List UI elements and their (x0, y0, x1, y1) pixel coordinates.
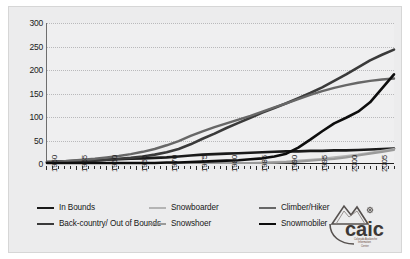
x-tick-mark (226, 166, 227, 170)
x-tick-label: 1965 (140, 155, 149, 172)
x-tick-mark (238, 166, 239, 169)
y-tick-label: 0 (38, 160, 43, 168)
legend-label: Snowshoer (171, 219, 211, 228)
legend-item[interactable]: In Bounds (37, 203, 95, 212)
x-tick-mark (76, 166, 77, 170)
x-tick-mark (256, 166, 257, 170)
x-tick-mark (250, 166, 251, 169)
x-tick-mark (208, 166, 209, 169)
series-line (47, 50, 394, 163)
legend-label: Climber/Hiker (281, 203, 329, 212)
x-tick-mark (268, 166, 269, 169)
x-tick-mark (220, 166, 221, 169)
y-tick-label: 100 (29, 113, 43, 121)
legend-swatch-icon (149, 207, 166, 209)
x-tick-mark (310, 166, 311, 169)
x-tick-label: 1960 (110, 155, 119, 172)
x-tick-mark (370, 166, 371, 169)
x-tick-mark (358, 166, 359, 169)
x-tick-mark (82, 166, 83, 169)
x-tick-mark (262, 166, 263, 169)
legend-label: Snowmobiler (281, 219, 327, 228)
x-tick-mark (388, 166, 389, 169)
legend-item[interactable]: Climber/Hiker (259, 203, 329, 212)
x-tick-mark (124, 166, 125, 169)
x-tick-mark (142, 166, 143, 169)
y-tick-label: 300 (29, 19, 43, 27)
y-tick-label: 150 (29, 90, 43, 98)
chart-figure: 050100150200250300 195019551960196519701… (8, 6, 402, 253)
x-tick-mark (148, 166, 149, 169)
x-tick-label: 1995 (320, 155, 329, 172)
x-tick-mark (298, 166, 299, 169)
x-tick-mark (364, 166, 365, 169)
x-tick-mark (172, 166, 173, 169)
x-tick-mark (154, 166, 155, 169)
legend-swatch-icon (259, 207, 276, 209)
x-tick-mark (112, 166, 113, 169)
svg-text:Colorado Avalanche: Colorado Avalanche (354, 237, 378, 241)
legend-item[interactable]: Snowboarder (149, 203, 219, 212)
x-tick-label: 1955 (80, 155, 89, 172)
x-tick-mark (274, 166, 275, 169)
legend-label: Back-country/ Out of Bounds (59, 219, 161, 228)
x-tick-mark (244, 166, 245, 169)
legend-item[interactable]: Back-country/ Out of Bounds (37, 219, 161, 228)
x-tick-mark (64, 166, 65, 169)
x-tick-mark (352, 166, 353, 169)
x-tick-label: 1980 (230, 155, 239, 172)
legend-label: In Bounds (59, 203, 95, 212)
x-tick-mark (286, 166, 287, 170)
x-tick-mark (178, 166, 179, 169)
y-axis: 050100150200250300 (9, 7, 43, 167)
x-tick-label: 1950 (50, 155, 59, 172)
x-tick-mark (196, 166, 197, 170)
x-tick-mark (334, 166, 335, 169)
x-tick-mark (280, 166, 281, 169)
x-tick-label: 1990 (290, 155, 299, 172)
x-tick-mark (190, 166, 191, 169)
chart-lines (47, 23, 394, 163)
x-tick-mark (232, 166, 233, 169)
x-tick-mark (322, 166, 323, 169)
x-tick-mark (202, 166, 203, 169)
x-tick-mark (94, 166, 95, 169)
x-tick-label: 2005 (380, 155, 389, 172)
x-tick-mark (160, 166, 161, 169)
x-tick-mark (136, 166, 137, 170)
legend-item[interactable]: Snowmobiler (259, 219, 327, 228)
legend-swatch-icon (149, 223, 166, 225)
x-tick-mark (328, 166, 329, 169)
x-tick-mark (376, 166, 377, 170)
legend-swatch-icon (37, 223, 54, 225)
legend-item[interactable]: Snowshoer (149, 219, 211, 228)
x-tick-mark (88, 166, 89, 169)
y-tick-label: 200 (29, 66, 43, 74)
x-tick-label: 1985 (260, 155, 269, 172)
x-tick-mark (394, 166, 395, 169)
x-tick-mark (52, 166, 53, 169)
legend-swatch-icon (259, 223, 276, 225)
x-tick-mark (292, 166, 293, 169)
legend-label: Snowboarder (171, 203, 219, 212)
x-tick-mark (316, 166, 317, 170)
x-tick-mark (46, 166, 47, 170)
plot-area (46, 23, 394, 164)
x-tick-mark (304, 166, 305, 169)
caic-logo: caic Colorado Avalanche Information Cent… (324, 194, 396, 250)
x-tick-mark (346, 166, 347, 170)
x-tick-mark (214, 166, 215, 169)
x-tick-label: 2000 (350, 155, 359, 172)
x-tick-label: 1975 (200, 155, 209, 172)
y-tick-label: 250 (29, 43, 43, 51)
chart-legend: In BoundsBack-country/ Out of BoundsSnow… (37, 203, 337, 237)
y-tick-label: 50 (34, 137, 43, 145)
svg-text:caic: caic (345, 218, 384, 240)
x-tick-mark (58, 166, 59, 169)
x-tick-mark (166, 166, 167, 170)
x-tick-mark (382, 166, 383, 169)
svg-text:Center: Center (361, 244, 369, 248)
svg-text:Information: Information (358, 240, 372, 244)
x-tick-mark (118, 166, 119, 169)
x-tick-mark (106, 166, 107, 170)
